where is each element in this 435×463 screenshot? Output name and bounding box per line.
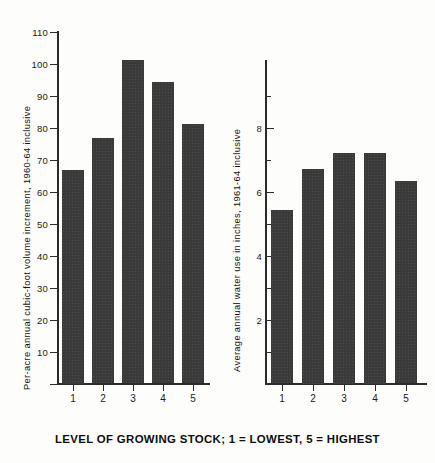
- left-ytick-label-20: 20: [22, 315, 48, 326]
- chart-figure: Per-acre annual cubic-foot volume increm…: [0, 0, 435, 463]
- right-xtick-label-2: 2: [310, 393, 316, 404]
- bar-right-5: [395, 181, 417, 383]
- left-ytick-label-100: 100: [19, 59, 48, 70]
- bar-left-3: [122, 60, 144, 383]
- chart-panel-left: Per-acre annual cubic-foot volume increm…: [0, 0, 222, 430]
- left-xtick-label-2: 2: [100, 393, 106, 404]
- left-ytick-label-60: 60: [22, 187, 48, 198]
- bar-right-4: [364, 153, 386, 384]
- bar-right-2: [302, 169, 324, 384]
- left-xtick-label-5: 5: [190, 393, 196, 404]
- left-ytick-label-90: 90: [22, 91, 48, 102]
- bar-left-2: [92, 138, 114, 383]
- bar-right-3: [333, 153, 355, 384]
- right-xtick-label-1: 1: [279, 393, 285, 404]
- right-xtick-label-5: 5: [403, 393, 409, 404]
- left-ytick-label-80: 80: [22, 123, 48, 134]
- bar-right-1: [271, 210, 293, 383]
- right-ytick-label-6: 6: [244, 187, 262, 198]
- left-xtick-label-3: 3: [130, 393, 136, 404]
- left-xtick-label-4: 4: [160, 393, 166, 404]
- left-panel-y-axis-line: [57, 31, 59, 384]
- right-ytick-label-4: 4: [244, 251, 262, 262]
- chart-panel-right: Average annual water use in inches, 1961…: [222, 0, 435, 430]
- right-ytick-label-8: 8: [244, 123, 262, 134]
- x-axis-caption: LEVEL OF GROWING STOCK; 1 = LOWEST, 5 = …: [0, 433, 435, 445]
- right-panel-y-axis-label: Average annual water use in inches, 1961…: [232, 129, 242, 372]
- bar-left-1: [62, 170, 84, 384]
- left-ytick-label-110: 110: [19, 27, 48, 38]
- right-panel-y-axis-line: [265, 60, 267, 384]
- left-ytick-label-30: 30: [22, 283, 48, 294]
- left-ytick-label-10: 10: [22, 347, 48, 358]
- right-ytick-label-2: 2: [244, 315, 262, 326]
- left-ytick-label-40: 40: [22, 251, 48, 262]
- bar-left-5: [182, 124, 204, 383]
- left-ytick-label-50: 50: [22, 219, 48, 230]
- right-xtick-label-3: 3: [341, 393, 347, 404]
- bar-left-4: [152, 82, 174, 383]
- right-xtick-label-4: 4: [372, 393, 378, 404]
- left-xtick-label-1: 1: [70, 393, 76, 404]
- left-ytick-label-70: 70: [22, 155, 48, 166]
